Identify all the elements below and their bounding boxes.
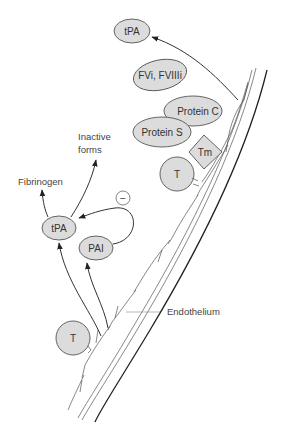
tm-node: Tm: [189, 135, 222, 169]
inactive-label-line2: forms: [78, 144, 102, 155]
arrow-to-fibrinogen: [42, 190, 48, 217]
svg-text:Protein S: Protein S: [141, 127, 182, 138]
t-lower-node: T: [56, 321, 90, 355]
svg-text:Tm: Tm: [198, 147, 212, 158]
svg-text:tPA: tPA: [124, 26, 140, 37]
svg-text:PAI: PAI: [88, 243, 103, 254]
inhibition-node: −: [116, 191, 130, 205]
t-lower-anchor: [88, 346, 91, 353]
svg-text:tPA: tPA: [51, 223, 67, 234]
fvi-fviii-node: FVi, FVIIIi: [130, 55, 189, 96]
tpa-left-node: tPA: [42, 216, 76, 240]
svg-text:T: T: [70, 333, 76, 344]
svg-text:Protein C: Protein C: [177, 106, 219, 117]
protein-s-node: Protein S: [133, 117, 191, 147]
arrow-to-inactive-forms: [71, 160, 96, 217]
inactive-label-line1: Inactive: [78, 131, 111, 142]
pai-node: PAI: [79, 236, 113, 260]
endothelium-label: Endothelium: [167, 306, 220, 317]
coagulation-diagram: Endothelium tPA FVi, FVIIIi Protein C Pr…: [0, 0, 284, 429]
svg-text:T: T: [174, 169, 180, 180]
t-upper-node: T: [160, 157, 194, 191]
svg-text:−: −: [120, 193, 126, 204]
tpa-top-node: tPA: [114, 19, 150, 43]
fibrinogen-label: Fibrinogen: [18, 176, 63, 187]
svg-text:FVi, FVIIIi: FVi, FVIIIi: [138, 70, 182, 81]
arrow-t-to-pai: [87, 263, 108, 328]
